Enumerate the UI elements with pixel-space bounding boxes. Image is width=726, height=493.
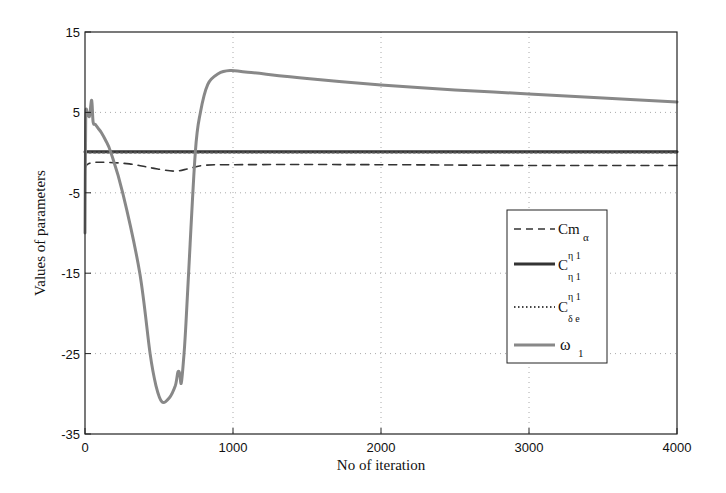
legend-label-main: C (558, 299, 568, 315)
legend-label-sub: α (583, 231, 589, 243)
series-cm-alpha (85, 162, 677, 171)
x-tick-label: 4000 (663, 440, 692, 455)
legend-label-sub: δ e (568, 313, 580, 324)
y-axis-title: Values of parameters (32, 170, 48, 296)
line-chart: 01000200030004000155-5-15-25-35 No of it… (0, 0, 726, 493)
legend-box (507, 210, 607, 363)
legend-label-sup: η 1 (568, 250, 581, 261)
legend: Cm α C η 1 η 1 C η 1 δ e ω 1 (507, 210, 607, 363)
y-tick-label: -5 (68, 186, 80, 201)
y-tick-label: -35 (61, 427, 80, 442)
x-tick-label: 1000 (219, 440, 248, 455)
y-tick-label: 5 (73, 105, 80, 120)
legend-label-sub: 1 (578, 347, 584, 359)
y-tick-label: -15 (61, 266, 80, 281)
legend-label-sup: η 1 (568, 291, 581, 302)
x-tick-label: 0 (81, 440, 88, 455)
legend-label-main: C (558, 257, 568, 273)
x-tick-label: 2000 (367, 440, 396, 455)
legend-label-main: ω (560, 336, 571, 353)
x-tick-label: 3000 (515, 440, 544, 455)
x-axis-title: No of iteration (337, 457, 426, 473)
y-tick-label: 15 (66, 25, 80, 40)
y-tick-label: -25 (61, 347, 80, 362)
legend-label-main: Cm (558, 221, 580, 237)
legend-label-sub: η 1 (568, 271, 581, 282)
